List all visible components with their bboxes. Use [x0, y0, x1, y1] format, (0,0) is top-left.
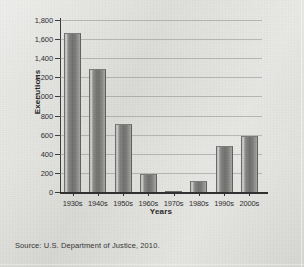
bar[interactable] [89, 69, 106, 192]
bar[interactable] [241, 136, 258, 192]
plot-area: 02004006008001,0001,2001,4001,6001,800 1… [60, 20, 262, 192]
y-tick-label: 1,000 [35, 92, 53, 101]
bar[interactable] [190, 181, 207, 192]
x-tick-mark [123, 192, 124, 196]
y-tick-label: 200 [41, 168, 53, 177]
x-tick-mark [249, 192, 250, 196]
x-tick-mark [174, 192, 175, 196]
y-tick-label: 1,800 [35, 16, 53, 25]
y-tick-label: 600 [41, 130, 53, 139]
bar[interactable] [64, 33, 81, 192]
y-tick-mark [55, 192, 60, 193]
bar-slot [212, 20, 237, 192]
bar-slot [186, 20, 211, 192]
x-tick-mark [148, 192, 149, 196]
x-axis-title: Years [60, 207, 262, 216]
x-tick-mark [199, 192, 200, 196]
bar-slot [237, 20, 262, 192]
source-note: Source: U.S. Department of Justice, 2010… [15, 241, 160, 250]
bar-slot [161, 20, 186, 192]
y-tick-label: 400 [41, 149, 53, 158]
bar-slot [85, 20, 110, 192]
plate-edge-right [301, 0, 302, 267]
x-tick-mark [73, 192, 74, 196]
bar[interactable] [115, 124, 132, 193]
chart-figure: Executions 02004006008001,0001,2001,4001… [0, 0, 304, 267]
bar[interactable] [216, 146, 233, 192]
bar-slot [136, 20, 161, 192]
y-tick-label: 1,600 [35, 35, 53, 44]
x-tick-mark [224, 192, 225, 196]
bar-series [60, 20, 262, 192]
x-axis-line [60, 192, 268, 194]
plate-edge-bottom [0, 264, 304, 265]
y-tick-label: 1,400 [35, 54, 53, 63]
chart-panel: Executions 02004006008001,0001,2001,4001… [5, 4, 297, 232]
bar-slot [60, 20, 85, 192]
y-tick-label: 0 [49, 188, 53, 197]
y-tick-label: 1,200 [35, 73, 53, 82]
bar-slot [111, 20, 136, 192]
bar[interactable] [140, 174, 157, 192]
x-tick-mark [98, 192, 99, 196]
y-tick-label: 800 [41, 111, 53, 120]
